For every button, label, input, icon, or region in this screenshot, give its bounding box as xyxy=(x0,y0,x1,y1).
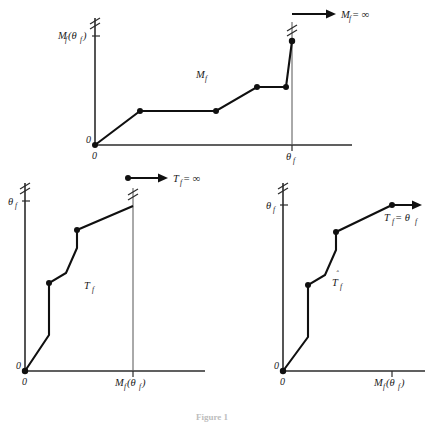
top-data-point xyxy=(92,142,98,148)
br-y-axis-label: θ f xyxy=(266,200,276,214)
br-data-point xyxy=(305,282,311,288)
svg-text:= θ: = θ xyxy=(395,212,410,223)
figure-canvas: M f (θ f ) 0 0 θ f M f M f = ∞ θ f xyxy=(0,0,427,423)
br-plateau-arrow-icon xyxy=(392,201,422,210)
svg-text:θ: θ xyxy=(286,151,291,162)
bl-annotation-label: T f = ∞ xyxy=(173,173,200,187)
bl-x-axis-label: M f (θ f ) xyxy=(114,377,146,391)
bl-origin-x-label: 0 xyxy=(22,376,27,387)
top-infinity-arrow-icon xyxy=(292,10,336,19)
bl-data-point xyxy=(22,368,28,374)
top-curve-label: M f xyxy=(195,69,208,83)
top-origin-x-label: 0 xyxy=(92,150,97,161)
svg-text:f: f xyxy=(273,205,276,214)
plot-top xyxy=(90,10,352,152)
top-y-axis-label: M f (θ f ) xyxy=(57,30,87,44)
top-annotation-label: M f = ∞ xyxy=(340,9,369,23)
bl-data-point xyxy=(46,280,52,286)
br-origin-x-label: 0 xyxy=(280,376,285,387)
br-data-point xyxy=(280,368,286,374)
svg-text:= ∞: = ∞ xyxy=(183,173,200,184)
figure-caption: Figure 1 xyxy=(196,412,229,422)
svg-text:ˆ: ˆ xyxy=(336,270,339,279)
svg-text:f: f xyxy=(92,285,95,294)
bl-origin-y-label: 0 xyxy=(16,360,21,371)
svg-text:(θ: (θ xyxy=(68,30,77,42)
top-data-point xyxy=(213,108,219,114)
svg-text:f: f xyxy=(340,282,343,291)
svg-text:): ) xyxy=(82,30,87,42)
svg-text:): ) xyxy=(141,377,146,389)
svg-text:(θ: (θ xyxy=(386,377,395,389)
bl-infinity-arrow-icon xyxy=(128,174,168,183)
bl-data-point xyxy=(74,227,80,233)
svg-text:f: f xyxy=(415,217,418,226)
br-curve-label: T ˆ f xyxy=(332,270,343,291)
top-data-point xyxy=(283,84,289,90)
svg-text:= ∞: = ∞ xyxy=(352,9,369,20)
svg-text:f: f xyxy=(293,156,296,165)
svg-text:T: T xyxy=(173,173,180,184)
br-x-axis-label: M f (θ f ) xyxy=(373,377,405,391)
bl-curve-label: T f xyxy=(84,280,95,294)
svg-text:): ) xyxy=(400,377,405,389)
br-origin-y-label: 0 xyxy=(274,360,279,371)
plot-bottom-left xyxy=(20,174,205,378)
figure-root: M f (θ f ) 0 0 θ f M f M f = ∞ θ f xyxy=(0,0,427,423)
top-data-curve xyxy=(95,41,292,145)
top-data-point xyxy=(254,84,260,90)
svg-text:θ: θ xyxy=(8,196,13,207)
top-data-point xyxy=(137,108,143,114)
svg-text:T: T xyxy=(84,280,91,291)
svg-text:f: f xyxy=(205,74,208,83)
top-origin-y-label: 0 xyxy=(86,134,91,145)
top-xtick-label: θ f xyxy=(286,151,296,165)
svg-text:θ: θ xyxy=(266,200,271,211)
bl-y-axis-label: θ f xyxy=(8,196,18,210)
br-data-point xyxy=(333,229,339,235)
svg-text:(θ: (θ xyxy=(127,377,136,389)
svg-text:f: f xyxy=(15,201,18,210)
top-data-point xyxy=(289,38,295,44)
